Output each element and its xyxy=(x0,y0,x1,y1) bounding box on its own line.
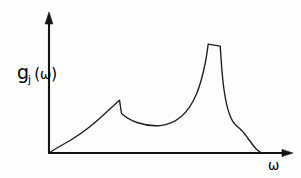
figure-container: gj(ω) ω xyxy=(0,0,301,178)
dos-plot-svg xyxy=(0,0,301,178)
x-axis-label-symbol: ω xyxy=(268,157,279,173)
arrow-up-icon xyxy=(45,12,53,24)
y-axis-label-subscript: j xyxy=(28,73,31,86)
x-axis-label: ω xyxy=(268,157,279,173)
y-axis-label: gj(ω) xyxy=(17,63,57,82)
y-axis-label-close-paren: ) xyxy=(51,65,57,83)
y-axis-label-argument: ω xyxy=(40,66,51,82)
dos-curve-path xyxy=(50,44,263,153)
arrow-right-icon xyxy=(282,149,293,156)
x-axis xyxy=(49,149,293,156)
